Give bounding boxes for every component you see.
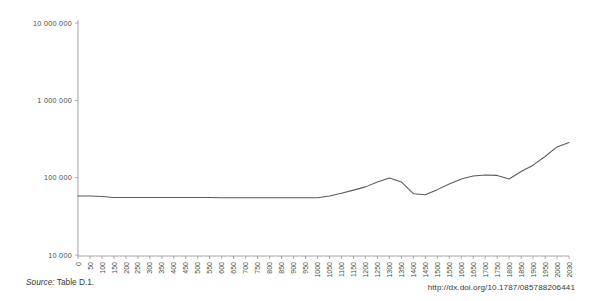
x-tick-group: 0501001502002503003504004505005506006507… [75,256,573,278]
x-tick-label: 250 [134,262,141,274]
y-axis-group: 10 000 0001 000 000100 00010 000 [33,19,78,260]
x-tick-label: 850 [278,262,285,274]
x-tick-label: 1150 [350,262,357,277]
y-tick-label: 10 000 000 [33,19,72,28]
x-tick-label: 1650 [470,262,477,278]
x-tick-label: 1250 [374,262,381,278]
population-line-chart: 10 000 0001 000 000100 00010 000 0501001… [0,0,593,301]
x-tick-label: 1750 [494,262,501,278]
x-tick-label: 1000 [314,262,321,278]
x-tick-label: 1200 [362,262,369,278]
y-tick-label: 100 000 [44,173,72,182]
x-tick-label: 350 [158,262,165,274]
x-tick-label: 1700 [482,262,489,278]
x-axis-group: 0501001502002503003504004505005506006507… [75,256,573,278]
x-tick-label: 1500 [434,262,441,278]
x-tick-label: 0 [75,262,82,266]
x-tick-label: 50 [87,262,94,270]
x-tick-label: 2030 [566,262,573,278]
x-tick-label: 700 [242,262,249,274]
x-tick-label: 200 [123,262,130,274]
x-tick-label: 600 [218,262,225,274]
y-tick-group: 10 000 0001 000 000100 00010 000 [33,19,78,260]
x-tick-label: 1400 [410,262,417,278]
x-tick-label: 300 [146,262,153,274]
x-tick-label: 1100 [338,262,345,277]
x-tick-label: 1350 [398,262,405,278]
x-tick-label: 400 [170,262,177,274]
x-tick-label: 1050 [326,262,333,278]
x-tick-label: 150 [111,262,118,274]
x-tick-label: 550 [206,262,213,274]
x-tick-label: 1550 [446,262,453,278]
x-tick-label: 500 [194,262,201,274]
x-tick-label: 1950 [542,262,549,278]
x-tick-label: 900 [290,262,297,274]
x-tick-label: 2000 [554,262,561,278]
x-tick-label: 450 [182,262,189,274]
x-tick-label: 800 [266,262,273,274]
series-line-population [78,142,569,197]
x-tick-label: 750 [254,262,261,274]
chart-figure: 10 000 0001 000 000100 00010 000 0501001… [0,0,593,301]
x-tick-label: 100 [99,262,106,274]
source-reference: Table D.1. [55,277,95,287]
doi-link[interactable]: http://dx.doi.org/10.1787/085788206441 [428,283,575,292]
x-tick-label: 1900 [530,262,537,278]
x-tick-label: 1450 [422,262,429,278]
x-tick-label: 1300 [386,262,393,278]
series-group [78,142,569,197]
x-tick-label: 1850 [518,262,525,278]
y-tick-label: 10 000 [48,251,72,260]
x-tick-label: 650 [230,262,237,274]
source-label: Source: [26,277,55,287]
x-tick-label: 1800 [506,262,513,278]
x-tick-label: 950 [302,262,309,274]
y-tick-label: 1 000 000 [37,96,72,105]
x-tick-label: 1600 [458,262,465,278]
source-note: Source: Table D.1. [26,277,94,287]
